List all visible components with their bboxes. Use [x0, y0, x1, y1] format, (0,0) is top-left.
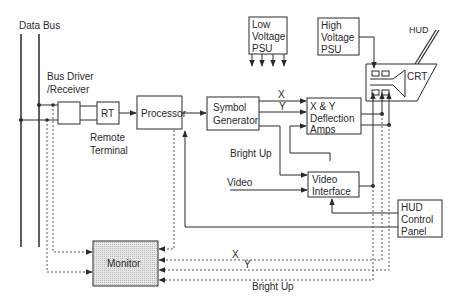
- deflection-label: X & Y: [310, 101, 336, 112]
- svg-text:Control: Control: [401, 214, 433, 225]
- remote-terminal-label: Remote: [90, 132, 125, 143]
- y-label: Y: [279, 101, 286, 112]
- bus-driver-block: [58, 102, 80, 124]
- x-label: X: [278, 89, 285, 100]
- svg-text:Interface: Interface: [312, 186, 351, 197]
- monitor-label: Monitor: [107, 258, 141, 269]
- svg-text:Amps: Amps: [310, 124, 336, 135]
- hud-panel-label: HUD: [401, 202, 423, 213]
- svg-text:Panel: Panel: [401, 226, 427, 237]
- monitor-x-label: X: [232, 249, 239, 260]
- svg-text:PSU: PSU: [321, 44, 342, 55]
- svg-text:Deflection: Deflection: [310, 113, 354, 124]
- svg-text:PSU: PSU: [252, 43, 273, 54]
- monitor-bright-up-label: Bright Up: [252, 281, 294, 292]
- crt-label: CRT: [407, 71, 427, 82]
- bus-driver-label: Bus Driver: [47, 71, 94, 82]
- video-interface-label: Video: [312, 174, 338, 185]
- symbol-generator-label: Symbol: [213, 102, 246, 113]
- hv-psu-label: High: [321, 20, 342, 31]
- hud-block-diagram: Data Bus Bus Driver /Receiver RT Remote …: [0, 0, 462, 305]
- video-label: Video: [227, 177, 253, 188]
- rt-label: RT: [101, 108, 114, 119]
- bright-up-label: Bright Up: [230, 148, 272, 159]
- svg-text:Generator: Generator: [213, 115, 259, 126]
- svg-text:Terminal: Terminal: [90, 145, 128, 156]
- processor-label: Processor: [141, 108, 187, 119]
- lv-psu-label: Low: [252, 19, 271, 30]
- svg-text:Voltage: Voltage: [321, 32, 355, 43]
- hud-label: HUD: [409, 25, 429, 35]
- svg-text:Voltage: Voltage: [252, 31, 286, 42]
- data-bus-label: Data Bus: [19, 20, 60, 31]
- svg-text:/Receiver: /Receiver: [47, 84, 90, 95]
- monitor-y-label: Y: [244, 259, 251, 270]
